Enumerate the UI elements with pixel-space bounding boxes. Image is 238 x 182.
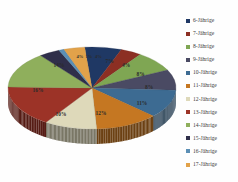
pie-slice-depth [82,129,83,144]
pie-slice-value-label: 12% [96,110,107,116]
pie-slice-depth [171,101,172,117]
pie-slice-depth [20,109,21,125]
pie-slice-depth [92,129,93,144]
pie-slice-depth [33,117,35,133]
legend-item-label: 9-Jährige [193,53,214,66]
pie-slice-depth [114,127,116,142]
legend-item[interactable]: 16-Jährige [186,145,238,158]
legend-item-label: 15-Jährige [193,132,217,145]
pie-slice-depth [12,101,13,117]
pie-slice-depth [109,128,111,143]
pie-slice-depth [21,110,22,126]
pie-slice-depth [170,103,171,119]
pie-slice-depth [18,107,19,123]
pie-slice-depth [97,129,99,144]
pie-slice-depth [162,110,163,126]
legend-item[interactable]: 15-Jährige [186,132,238,145]
legend-swatch-icon [186,71,190,75]
pie-slice-depth [23,111,24,127]
legend-item[interactable]: 8-Jährige [186,40,238,53]
pie-slice-depth [144,120,145,136]
legend-item[interactable]: 6-Jährige [186,14,238,27]
legend-item[interactable]: 12-Jährige [186,93,238,106]
pie-svg: 7%4%8%8%11%12%10%16%14%4%1%4% [6,38,178,146]
pie-slice-depth [165,108,166,124]
legend-item[interactable]: 13-Jährige [186,106,238,119]
pie-slice-depth [119,126,121,141]
pie-slice-depth [159,112,160,128]
legend-swatch-icon [186,97,190,101]
pie-slice-depth [11,100,12,116]
legend-item-label: 10-Jährige [193,66,217,79]
pie-slice-depth [31,116,33,132]
pie-slice-depth [17,106,18,122]
legend-swatch-icon [186,110,190,114]
legend-item[interactable]: 11-Jährige [186,79,238,92]
pie-chart-screenshot: 7%4%8%8%11%12%10%16%14%4%1%4% 6-Jährige7… [0,0,238,182]
pie-slice-depth [83,129,84,144]
pie-slice-depth [124,126,126,141]
chart-legend: 6-Jährige7-Jährige8-Jährige9-Jährige10-J… [186,14,238,171]
legend-item-label: 8-Jährige [193,40,214,53]
pie-slice-depth [155,114,156,130]
pie-slice-depth [102,129,104,144]
pie-slice-value-label: 4% [77,54,84,59]
pie-slice-value-label: 7% [105,58,113,64]
pie-slice-depth [161,110,162,126]
pie-slice-depth [100,129,102,144]
pie-slice-depth [105,128,107,143]
pie-slice-depth [112,128,114,143]
pie-slice-depth [66,127,67,142]
pie-slice-depth [56,125,57,140]
pie-slice-depth [63,127,64,142]
pie-slice-depth [131,124,133,139]
pie-chart-3d: 7%4%8%8%11%12%10%16%14%4%1%4% [6,38,178,146]
pie-slice-depth [44,122,46,138]
legend-item[interactable]: 17-Jährige [186,158,238,171]
pie-slice-depth [169,104,170,120]
pie-slice-depth [86,129,87,144]
pie-slice-depth [24,112,25,128]
pie-slice-depth [30,116,32,132]
pie-slice-depth [27,114,29,130]
pie-slice-depth [95,129,96,144]
pie-slice-depth [160,111,161,127]
pie-slice-depth [79,129,80,144]
legend-item[interactable]: 7-Jährige [186,27,238,40]
pie-slice-depth [77,128,78,143]
legend-swatch-icon [186,123,190,127]
pie-slice-depth [38,120,40,136]
pie-slice-depth [40,120,42,136]
pie-slice-depth [14,103,15,119]
legend-item-label: 6-Jährige [193,14,214,27]
pie-slice-depth [140,121,141,137]
pie-slice-depth [123,126,125,141]
pie-slice-depth [54,124,55,139]
pie-slice-depth [28,115,30,131]
pie-slice-value-label: 8% [136,71,144,77]
pie-slice-depth [154,115,155,131]
pie-slice-depth [52,124,53,139]
pie-slice-value-label: 16% [33,87,44,93]
pie-slice-depth [145,119,146,135]
pie-slice-value-label: 4% [122,62,130,68]
chart-panel: 7%4%8%8%11%12%10%16%14%4%1%4% [0,0,184,182]
legend-item[interactable]: 14-Jährige [186,119,238,132]
legend-swatch-icon [186,58,190,62]
pie-slice-depth [153,115,154,131]
pie-slice-depth [70,128,71,143]
pie-slice-depth [111,128,113,143]
pie-slice-depth [135,123,137,138]
pie-slice-depth [69,127,70,142]
legend-item-label: 17-Jährige [193,158,217,171]
pie-slice-depth [126,125,128,140]
pie-slice-depth [59,126,60,141]
legend-item[interactable]: 9-Jährige [186,53,238,66]
pie-slice-depth [89,129,90,144]
pie-slice-depth [166,107,167,123]
pie-slice-depth [42,121,44,137]
pie-slice-depth [11,98,12,114]
pie-slice-depth [91,129,92,144]
legend-item[interactable]: 10-Jährige [186,66,238,79]
pie-slice-value-label: 4% [95,54,102,59]
